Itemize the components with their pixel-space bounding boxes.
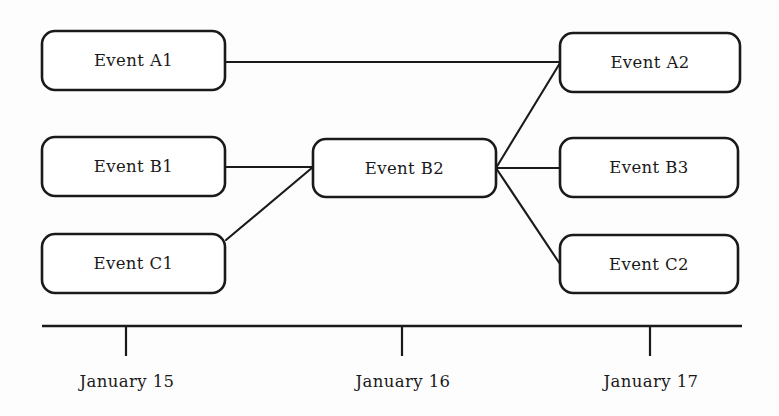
event-node-c2[interactable]: [560, 235, 738, 293]
event-node-b3[interactable]: [560, 138, 738, 197]
event-node-b2[interactable]: [313, 139, 496, 197]
event-node-c1[interactable]: [42, 234, 225, 293]
timeline-diagram-canvas: Event A1Event A2Event B1Event B2Event B3…: [0, 0, 779, 416]
edge-c1-to-b2: [226, 167, 313, 240]
edge-b2-to-a2: [496, 63, 560, 168]
event-node-a2[interactable]: [560, 33, 740, 92]
timeline-tick-label-2: January 16: [356, 372, 451, 391]
event-node-a1[interactable]: [42, 31, 225, 90]
timeline-tick-label-3: January 17: [604, 372, 699, 391]
nodes-layer: [42, 31, 740, 293]
diagram-vector-layer: [0, 0, 779, 416]
event-node-b1[interactable]: [42, 137, 225, 196]
edge-b2-to-c2: [496, 168, 560, 264]
timeline-tick-label-1: January 15: [80, 372, 175, 391]
timeline-axis-layer: [42, 326, 742, 356]
